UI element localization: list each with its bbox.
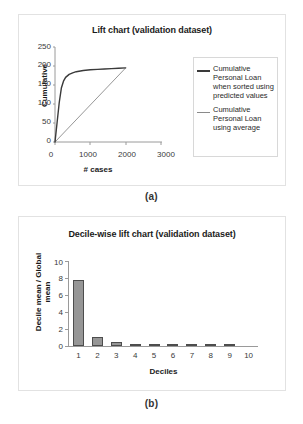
lift-chart-xtick-2000: 2000	[114, 151, 140, 159]
decile-chart-x-axis	[68, 346, 258, 347]
decile-bar-slot	[164, 261, 183, 346]
decile-chart-xtick-4: 4	[126, 351, 145, 363]
decile-chart-ytickmark-8	[65, 278, 68, 279]
decile-bar-slot	[69, 261, 88, 346]
decile-chart-title: Decile-wise lift chart (validation datas…	[19, 229, 285, 239]
lift-chart-ytick-200: 200	[29, 61, 51, 69]
decile-chart-ytickmark-0	[65, 346, 68, 347]
lift-chart-xtick-3000: 3000	[153, 151, 179, 159]
decile-bar	[186, 344, 197, 346]
decile-bar-slot	[126, 261, 145, 346]
legend-line-icon-average	[197, 108, 210, 116]
decile-chart-ytickmark-10	[65, 261, 68, 262]
decile-bar	[130, 344, 141, 346]
decile-chart-xtick-8: 8	[201, 351, 220, 363]
lift-chart-x-axis-title: # cases	[33, 165, 163, 174]
lift-chart-ytick-0: 0	[29, 137, 51, 145]
decile-chart-ytickmark-6	[65, 295, 68, 296]
decile-bar-slot	[239, 261, 258, 346]
lift-chart-ytick-150: 150	[29, 80, 51, 88]
decile-bar-slot	[88, 261, 107, 346]
decile-chart-xtick-6: 6	[164, 351, 183, 363]
decile-lift-chart-panel: Decile-wise lift chart (validation datas…	[18, 216, 286, 391]
lift-chart-ytick-50: 50	[29, 118, 51, 126]
decile-bar	[111, 342, 122, 346]
legend-label-average: Cumulative Personal Loan using average	[213, 105, 274, 132]
decile-bar-slot	[182, 261, 201, 346]
legend-line-icon-predicted	[197, 67, 210, 75]
decile-chart-ytick-8: 8	[45, 275, 63, 283]
decile-chart-ytickmark-2	[65, 329, 68, 330]
lift-chart-plot-area	[53, 45, 163, 145]
decile-chart-xtick-2: 2	[88, 351, 107, 363]
decile-chart-ytick-6: 6	[45, 292, 63, 300]
decile-chart-xtick-9: 9	[220, 351, 239, 363]
decile-chart-ytickmark-4	[65, 312, 68, 313]
decile-bar-slot	[107, 261, 126, 346]
decile-bar-slot	[145, 261, 164, 346]
decile-bar	[149, 344, 160, 346]
decile-bar	[92, 337, 103, 346]
lift-chart-ytick-250: 250	[29, 43, 51, 51]
decile-chart-x-axis-title: Deciles	[69, 367, 258, 376]
legend-item-average: Cumulative Personal Loan using average	[197, 105, 274, 132]
decile-chart-ytick-0: 0	[45, 343, 63, 351]
decile-bar	[167, 344, 178, 346]
decile-chart-x-tick-labels: 12345678910	[69, 351, 258, 363]
decile-bar	[73, 280, 84, 346]
decile-chart-xtick-5: 5	[145, 351, 164, 363]
decile-chart-ytick-10: 10	[45, 259, 63, 267]
decile-bar	[224, 344, 235, 346]
figure-page: Lift chart (validation dataset) Cumulati…	[0, 0, 303, 424]
figure-caption-a: (a)	[0, 191, 303, 202]
lift-chart-xtick-0: 0	[43, 151, 59, 159]
lift-chart-xtick-1000: 1000	[75, 151, 101, 159]
decile-bar-slot	[201, 261, 220, 346]
decile-chart-xtick-7: 7	[182, 351, 201, 363]
decile-chart-xtick-3: 3	[107, 351, 126, 363]
legend-label-predicted: Cumulative Personal Loan when sorted usi…	[213, 64, 274, 100]
decile-chart-xtick-10: 10	[239, 351, 258, 363]
decile-chart-bars	[69, 261, 258, 346]
lift-chart-title: Lift chart (validation dataset)	[19, 25, 285, 35]
figure-caption-b: (b)	[0, 398, 303, 409]
decile-chart-ytick-2: 2	[45, 326, 63, 334]
decile-chart-xtick-1: 1	[69, 351, 88, 363]
lift-chart-ytick-100: 100	[29, 99, 51, 107]
decile-bar-slot	[220, 261, 239, 346]
decile-bar	[205, 344, 216, 346]
lift-chart-baseline-line	[55, 68, 126, 142]
lift-chart-legend: Cumulative Personal Loan when sorted usi…	[193, 57, 278, 157]
decile-chart-ytick-4: 4	[45, 309, 63, 317]
legend-item-predicted: Cumulative Personal Loan when sorted usi…	[197, 64, 274, 100]
